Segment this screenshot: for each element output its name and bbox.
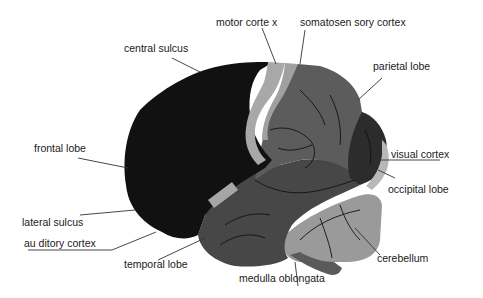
label-temporal-lobe: temporal lobe: [124, 258, 188, 270]
label-medulla-oblongata: medulla oblongata: [239, 272, 325, 284]
label-central-sulcus: central sulcus: [124, 42, 188, 54]
label-visual-cortex: visual cortex: [391, 148, 450, 160]
brain-diagram: motor corte x somatosen sory cortex cent…: [0, 0, 483, 298]
label-lateral-sulcus: lateral sulcus: [22, 216, 83, 228]
label-motor-cortex: motor corte x: [216, 16, 278, 28]
label-occipital-lobe: occipital lobe: [388, 183, 449, 195]
label-auditory-cortex: au ditory cortex: [24, 237, 97, 249]
label-parietal-lobe: parietal lobe: [373, 60, 430, 72]
label-somatosensory-cortex: somatosen sory cortex: [300, 16, 406, 28]
label-frontal-lobe: frontal lobe: [34, 142, 86, 154]
label-cerebellum: cerebellum: [377, 252, 429, 264]
